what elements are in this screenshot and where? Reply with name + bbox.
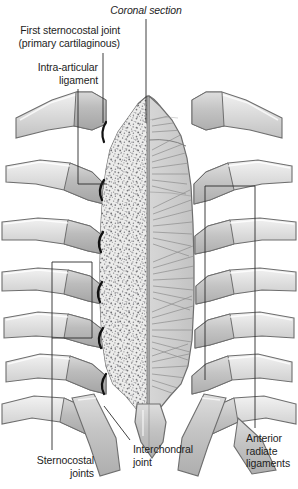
label-sternocostal-joints: Sternocostal joints — [0, 454, 94, 479]
label-intra-articular-ligament: Intra-articular ligament — [0, 61, 98, 86]
label-coronal-section: Coronal section — [66, 4, 226, 17]
label-interchondral-joint: Interchondral joint — [133, 443, 233, 468]
label-first-sternocostal-joint: First sternocostal joint (primary cartil… — [0, 24, 120, 49]
label-anterior-radiate-ligaments: Anterior radiate ligaments — [246, 432, 298, 470]
